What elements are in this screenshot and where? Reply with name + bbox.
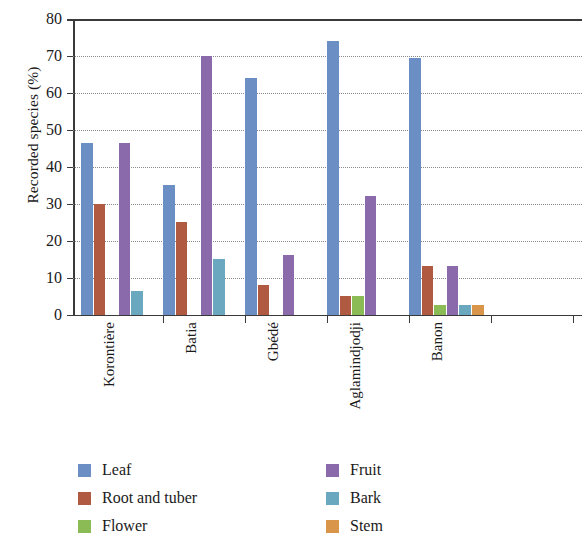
bar xyxy=(213,259,225,314)
legend-column-right: FruitBarkStem xyxy=(326,458,383,536)
legend-swatch-icon xyxy=(78,520,91,533)
legend-swatch-icon xyxy=(78,492,91,505)
legend-swatch-icon xyxy=(78,464,91,477)
legend-item[interactable]: Stem xyxy=(326,514,383,536)
y-axis-tick xyxy=(67,56,73,58)
y-axis-tick-label: 80 xyxy=(46,10,62,28)
bar xyxy=(81,143,93,315)
legend-item[interactable]: Fruit xyxy=(326,458,383,482)
y-axis-tick-label: 0 xyxy=(54,306,62,324)
x-axis-label-text: Banon xyxy=(429,322,446,361)
bar xyxy=(176,222,188,314)
bar xyxy=(245,78,257,314)
x-axis-label-text: Batia xyxy=(183,322,200,354)
bar xyxy=(327,41,339,314)
legend-label: Stem xyxy=(350,518,383,534)
y-axis-tick-label: 50 xyxy=(46,121,62,139)
x-axis-label: Aglamindjodji xyxy=(355,235,372,323)
legend-swatch-icon xyxy=(326,520,339,533)
y-axis-tick xyxy=(67,278,73,280)
y-axis-tick-label: 70 xyxy=(46,47,62,65)
legend-item[interactable]: Leaf xyxy=(78,458,197,482)
plot-area: 01020304050607080 xyxy=(73,19,582,316)
y-axis-tick xyxy=(67,204,73,206)
x-axis-tick xyxy=(573,316,575,323)
x-axis-label: Korontière xyxy=(109,257,126,322)
legend-label: Bark xyxy=(350,490,381,506)
legend-item[interactable]: Flower xyxy=(78,514,197,536)
legend-column-left: LeafRoot and tuberFlower xyxy=(78,458,197,536)
y-axis-tick-label: 30 xyxy=(46,195,62,213)
bar xyxy=(201,56,213,315)
bar xyxy=(409,58,421,315)
legend-swatch-icon xyxy=(326,492,339,505)
y-axis-tick-label: 60 xyxy=(46,84,62,102)
legend-item[interactable]: Bark xyxy=(326,486,383,510)
legend-label: Fruit xyxy=(350,462,381,478)
legend-label: Leaf xyxy=(102,462,131,478)
y-axis-tick xyxy=(67,130,73,132)
x-axis-label: Gbédé xyxy=(273,283,290,322)
x-axis-label-text: Gbédé xyxy=(265,322,282,361)
bar xyxy=(258,285,270,315)
plot-top-border xyxy=(73,19,582,21)
bar xyxy=(163,185,175,314)
y-axis-tick-label: 40 xyxy=(46,158,62,176)
x-axis-label-text: Aglamindjodji xyxy=(347,322,364,410)
x-axis-tick xyxy=(327,316,329,323)
y-axis-tick xyxy=(67,241,73,243)
legend-label: Root and tuber xyxy=(102,490,197,506)
y-axis-tick xyxy=(67,167,73,169)
legend-item[interactable]: Root and tuber xyxy=(78,486,197,510)
bar xyxy=(472,305,484,314)
y-axis-tick-label: 20 xyxy=(46,232,62,250)
legend-label: Flower xyxy=(102,518,147,534)
x-axis-label: Banon xyxy=(437,283,454,322)
y-axis-tick xyxy=(67,93,73,95)
y-axis-tick-label: 10 xyxy=(46,269,62,287)
y-axis-tick xyxy=(67,315,73,317)
bar xyxy=(131,291,143,315)
bar xyxy=(459,305,471,314)
y-axis-tick xyxy=(67,19,73,21)
x-axis-tick xyxy=(163,316,165,323)
x-axis-label-text: Korontière xyxy=(101,322,118,387)
bar xyxy=(422,266,434,314)
legend-swatch-icon xyxy=(326,464,339,477)
x-axis-label: Batia xyxy=(191,290,208,322)
x-axis-tick xyxy=(491,316,493,323)
bar xyxy=(94,204,106,315)
x-axis-tick xyxy=(245,316,247,323)
x-axis-tick xyxy=(409,316,411,323)
y-axis-title: Recorded species (%) xyxy=(24,10,42,260)
bar xyxy=(340,296,352,314)
chart-figure: Recorded species (%) 01020304050607080 K… xyxy=(0,0,584,536)
